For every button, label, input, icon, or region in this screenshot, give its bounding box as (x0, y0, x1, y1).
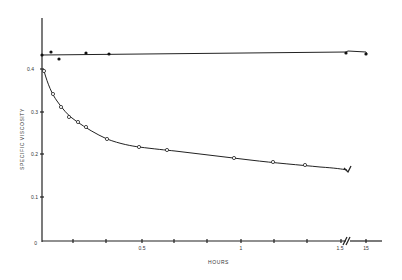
x-tick-0.5: 0.5 (139, 245, 146, 251)
series-upper (40, 50, 367, 60)
series-lower (42, 69, 351, 172)
x-tick-1.5: 1.5 (337, 245, 344, 251)
y-tick-0.4: 0.4 (27, 66, 34, 72)
x-axis-label: HOURS (208, 259, 229, 265)
y-tick-0.1: 0.1 (31, 194, 38, 200)
origin-label: 0 (34, 240, 37, 246)
x-tick-15: 15 (363, 245, 369, 251)
viscosity-chart: 0.4 0.3 0.2 0.1 0 0.5 1 1.5 15 HOURS SPE… (0, 0, 402, 280)
y-tick-0.2: 0.2 (31, 151, 38, 157)
y-tick-0.3: 0.3 (31, 109, 38, 115)
y-axis-label: SPECIFIC VISCOSITY (19, 108, 25, 170)
x-tick-1: 1 (240, 245, 243, 251)
series-break-mark (344, 166, 351, 172)
